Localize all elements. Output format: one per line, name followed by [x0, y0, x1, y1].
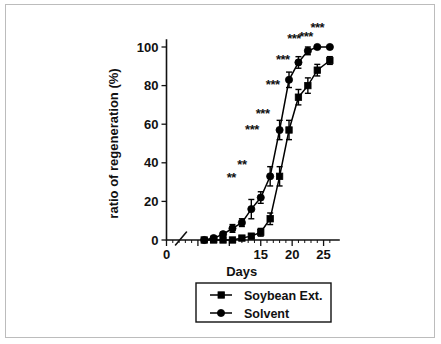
- series-solvent: [201, 43, 334, 243]
- legend-marker-circle: [217, 309, 224, 316]
- x-tick-label: 0: [163, 247, 170, 262]
- data-point-square: [258, 229, 264, 235]
- data-point-circle: [210, 234, 217, 241]
- data-point-square: [239, 235, 245, 241]
- data-point-circle: [238, 219, 245, 226]
- data-point-circle: [304, 47, 311, 54]
- y-axis-title: ratio of regeneration (%): [106, 68, 121, 218]
- data-point-square: [295, 94, 301, 100]
- data-point-circle: [229, 225, 236, 232]
- significance-marker: ***: [276, 52, 291, 67]
- data-point-square: [248, 233, 254, 239]
- regeneration-ratio-chart: 0204060801000152025 ********************…: [0, 0, 441, 344]
- x-tick-label: 15: [254, 247, 268, 262]
- data-point-square: [286, 127, 292, 133]
- y-tick-label: 60: [144, 117, 158, 132]
- significance-marker: ***: [256, 106, 271, 121]
- data-point-circle: [201, 236, 208, 243]
- y-tick-label: 80: [144, 78, 158, 93]
- data-point-circle: [314, 43, 321, 50]
- significance-marker: **: [227, 170, 238, 185]
- data-point-square: [305, 82, 311, 88]
- significance-marker: ***: [310, 20, 325, 35]
- legend-marker-square: [218, 292, 224, 298]
- chart-axes: [162, 40, 340, 246]
- data-point-circle: [219, 231, 226, 238]
- data-point-square: [229, 237, 235, 243]
- chart-series-group: [201, 43, 334, 243]
- data-point-circle: [267, 173, 274, 180]
- data-point-square: [267, 216, 273, 222]
- significance-marker: ***: [245, 122, 260, 137]
- legend-label: Soybean Ext.: [244, 289, 323, 303]
- data-point-circle: [248, 206, 255, 213]
- axis-break-mark: [176, 232, 187, 245]
- data-point-square: [314, 67, 320, 73]
- data-point-square: [276, 173, 282, 179]
- x-tick-label: 20: [285, 247, 299, 262]
- y-tick-label: 40: [144, 155, 158, 170]
- chart-legend[interactable]: Soybean Ext.Solvent: [196, 283, 331, 322]
- data-point-circle: [326, 43, 333, 50]
- data-point-circle: [257, 194, 264, 201]
- y-tick-label: 20: [144, 194, 158, 209]
- data-point-square: [327, 57, 333, 63]
- legend-label: Solvent: [244, 307, 290, 321]
- data-point-circle: [285, 76, 292, 83]
- series-line: [204, 47, 330, 240]
- data-point-circle: [295, 59, 302, 66]
- data-point-circle: [276, 126, 283, 133]
- significance-marker: **: [237, 157, 248, 172]
- x-tick-label: 25: [316, 247, 330, 262]
- y-tick-label: 100: [137, 40, 159, 55]
- significance-marker: ***: [266, 77, 281, 92]
- figure-root: 0204060801000152025 ********************…: [0, 0, 441, 344]
- y-tick-label: 0: [151, 233, 158, 248]
- significance-annotations: *************************: [227, 20, 326, 186]
- x-axis-title: Days: [226, 264, 257, 279]
